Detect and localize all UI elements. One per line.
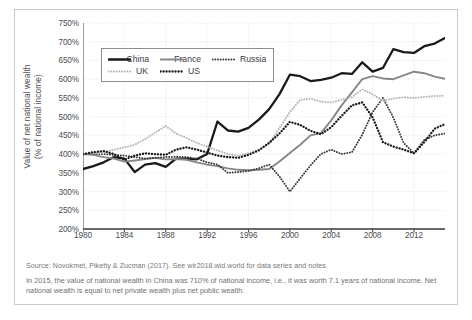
legend-swatch-china (108, 55, 122, 64)
series-line-us (83, 102, 445, 159)
y-tick-label: 450% (45, 131, 79, 140)
legend-row: UK US (108, 65, 266, 77)
y-tick-label: 550% (45, 93, 79, 102)
y-tick-label: 600% (45, 75, 79, 84)
x-tick-label: 2000 (281, 231, 299, 240)
chart-area: Value of net national wealth (% of natio… (15, 10, 459, 262)
legend-label-russia: Russia (240, 54, 266, 64)
y-tick-label: 250% (45, 206, 79, 215)
legend-label-us: US (188, 66, 200, 76)
legend-swatch-uk (108, 67, 131, 76)
y-tick-label: 400% (45, 150, 79, 159)
legend-swatch-russia (212, 55, 235, 64)
x-tick-label: 1992 (198, 231, 216, 240)
legend-item-china[interactable]: China (108, 54, 149, 64)
x-tick-label: 2008 (364, 231, 382, 240)
y-tick-label: 700% (45, 37, 79, 46)
legend-item-france[interactable]: France (160, 54, 201, 64)
legend-swatch-us (160, 67, 183, 76)
y-tick-label: 350% (45, 168, 79, 177)
legend-item-russia[interactable]: Russia (212, 54, 266, 64)
y-tick-label: 750% (45, 19, 79, 28)
legend-swatch-france (160, 55, 169, 64)
x-tick-label: 1996 (240, 231, 258, 240)
x-tick-label: 2012 (405, 231, 423, 240)
y-axis-ticks: 750%700%650%600%550%500%450%400%350%300%… (41, 10, 79, 262)
y-axis-label-line1: Value of net national wealth (22, 64, 32, 168)
x-tick-label: 1980 (74, 231, 92, 240)
y-tick-label: 300% (45, 187, 79, 196)
note-line: In 2015, the value of national wealth in… (26, 276, 450, 295)
y-tick-label: 650% (45, 56, 79, 65)
x-tick-label: 1988 (157, 231, 175, 240)
x-axis-ticks: 198019841988199219962000200420082012 (15, 229, 459, 249)
x-tick-label: 2004 (322, 231, 340, 240)
source-line: Source: Novokmet, Piketty & Zucman (2017… (26, 262, 450, 270)
legend-row: China France Russia (108, 53, 266, 65)
chart-legend: China France Russia UK US (101, 48, 274, 82)
legend-label-uk: UK (136, 66, 148, 76)
y-tick-label: 500% (45, 112, 79, 121)
figure-panel: Value of net national wealth (% of natio… (14, 9, 458, 305)
y-axis-label: Value of net national wealth (% of natio… (22, 37, 43, 197)
x-tick-label: 1984 (115, 231, 133, 240)
legend-item-us[interactable]: US (160, 66, 201, 76)
figure-notes: Source: Novokmet, Piketty & Zucman (2017… (26, 262, 450, 295)
legend-item-uk[interactable]: UK (108, 66, 149, 76)
